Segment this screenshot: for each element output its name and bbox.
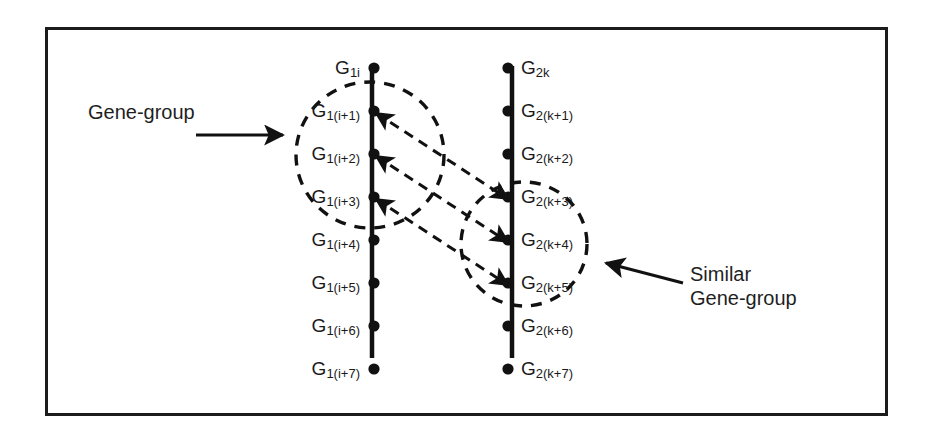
gene-node (368, 363, 379, 374)
gene-label-g1i7: G1(i+7) (312, 359, 360, 378)
gene-node (368, 234, 379, 245)
gene-base: G (521, 186, 536, 207)
gene-subscript: 1(i+5) (326, 280, 360, 295)
gene-subscript: 2(k+1) (536, 108, 573, 123)
gene-node (502, 62, 513, 73)
gene-label-g2k2: G2(k+2) (521, 144, 573, 163)
gene-subscript: 1(i+3) (326, 194, 360, 209)
gene-subscript: 2k (536, 65, 550, 80)
gene-label-g1i: G1i (335, 58, 360, 77)
gene-label-g2k1: G2(k+1) (521, 101, 573, 120)
correspondence-arrow (376, 113, 508, 199)
gene-node (368, 277, 379, 288)
gene-base: G (312, 229, 327, 250)
gene-base: G (521, 315, 536, 336)
gene-label-g2k3: G2(k+3) (521, 187, 573, 206)
gene-node (502, 234, 513, 245)
gene-base: G (521, 229, 536, 250)
gene-base: G (312, 272, 327, 293)
gene-base: G (312, 315, 327, 336)
genome-1-axis (368, 62, 379, 374)
gene-label-g1i1: G1(i+1) (312, 101, 360, 120)
gene-base: G (521, 143, 536, 164)
gene-node (368, 320, 379, 331)
gene-label-g1i2: G1(i+2) (312, 144, 360, 163)
gene-base: G (335, 57, 350, 78)
similar-gene-group-leader-line (606, 263, 683, 283)
gene-subscript: 1i (350, 65, 360, 80)
gene-node (368, 62, 379, 73)
gene-subscript: 1(i+2) (326, 151, 360, 166)
gene-base: G (312, 100, 327, 121)
gene-label-g2k5: G2(k+5) (521, 273, 573, 292)
gene-node (502, 277, 513, 288)
gene-label-g1i6: G1(i+6) (312, 316, 360, 335)
gene-label-g2k7: G2(k+7) (521, 359, 573, 378)
gene-subscript: 2(k+2) (536, 151, 573, 166)
correspondence-arrow (376, 156, 508, 242)
gene-base: G (312, 143, 327, 164)
gene-node (502, 191, 513, 202)
gene-label-g1i4: G1(i+4) (312, 230, 360, 249)
gene-subscript: 2(k+6) (536, 323, 573, 338)
gene-label-g1i5: G1(i+5) (312, 273, 360, 292)
gene-subscript: 1(i+7) (326, 366, 360, 381)
gene-subscript: 1(i+6) (326, 323, 360, 338)
gene-node (368, 105, 379, 116)
genome-2-axis (502, 62, 513, 374)
gene-base: G (312, 358, 327, 379)
gene-subscript: 1(i+4) (326, 237, 360, 252)
gene-subscript: 2(k+4) (536, 237, 573, 252)
gene-label-g2k4: G2(k+4) (521, 230, 573, 249)
gene-base: G (312, 186, 327, 207)
gene-base: G (521, 358, 536, 379)
gene-subscript: 1(i+1) (326, 108, 360, 123)
gene-node (502, 148, 513, 159)
gene-subscript: 2(k+5) (536, 280, 573, 295)
gene-base: G (521, 100, 536, 121)
gene-subscript: 2(k+7) (536, 366, 573, 381)
gene-subscript: 2(k+3) (536, 194, 573, 209)
gene-node (502, 105, 513, 116)
gene-label-g1i3: G1(i+3) (312, 187, 360, 206)
gene-node (368, 148, 379, 159)
diagram-svg (0, 0, 932, 438)
figure-canvas: G1i G1(i+1) G1(i+2) G1(i+3) G1(i+4) G1(i… (0, 0, 932, 438)
gene-base: G (521, 272, 536, 293)
callout-line: Gene-group (690, 286, 797, 310)
gene-node (502, 363, 513, 374)
correspondence-arrow (376, 199, 508, 285)
gene-label-g2k6: G2(k+6) (521, 316, 573, 335)
gene-node (368, 191, 379, 202)
gene-label-g2k: G2k (521, 58, 550, 77)
gene-group-callout-label: Gene-group (88, 100, 195, 124)
gene-node (502, 320, 513, 331)
gene-base: G (521, 57, 536, 78)
callout-line: Similar (690, 262, 797, 286)
callout-line: Gene-group (88, 100, 195, 124)
similar-gene-group-callout-label: Similar Gene-group (690, 262, 797, 310)
